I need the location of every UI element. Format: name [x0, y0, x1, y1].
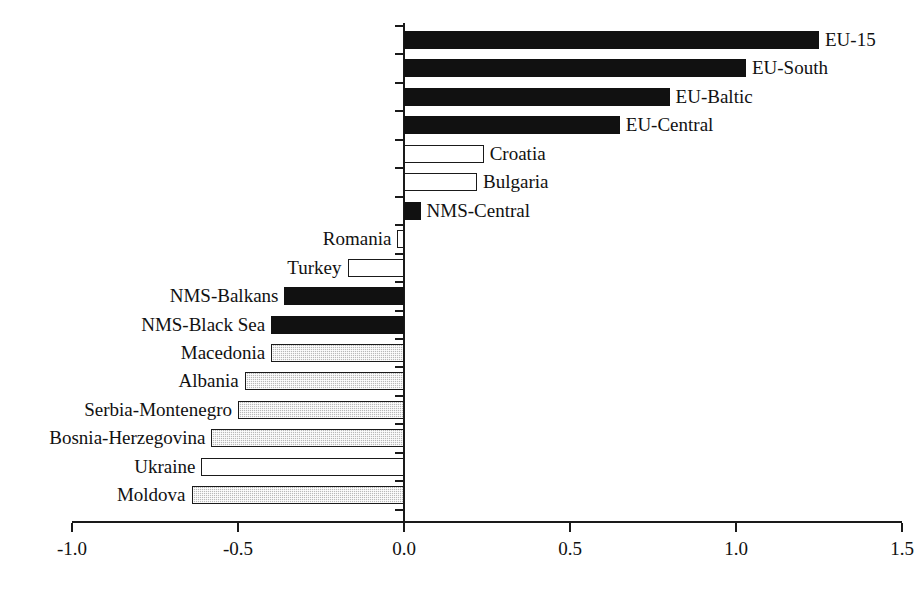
y-axis-tick: [395, 196, 403, 198]
bar: [404, 116, 620, 134]
y-axis-tick: [395, 253, 403, 255]
bar: [404, 202, 421, 220]
y-axis-tick: [395, 167, 403, 169]
category-label: Ukraine: [134, 457, 195, 477]
x-axis-tick: [403, 523, 405, 532]
category-label: Albania: [178, 371, 238, 391]
y-axis-tick: [395, 423, 403, 425]
bar: [404, 145, 484, 163]
y-axis-tick: [395, 139, 403, 141]
bar: [211, 429, 404, 447]
x-axis-tick-label: 0.0: [364, 539, 444, 559]
category-label: EU-Central: [626, 115, 714, 135]
x-axis-tick-label: 0.5: [530, 539, 610, 559]
bar: [284, 287, 404, 305]
bar: [238, 401, 404, 419]
category-label: NMS-Balkans: [170, 286, 279, 306]
bar: [348, 259, 404, 277]
x-axis-tick-label: 1.0: [696, 539, 776, 559]
x-axis-tick: [569, 523, 571, 532]
bar: [404, 59, 746, 77]
plot-area: -1.0-0.50.00.51.01.5EU-15EU-SouthEU-Balt…: [0, 0, 924, 590]
category-label: Croatia: [490, 144, 546, 164]
category-label: Bulgaria: [483, 172, 548, 192]
bar: [271, 344, 404, 362]
category-label: EU-South: [752, 58, 828, 78]
category-label: Moldova: [117, 485, 186, 505]
bar: [404, 31, 819, 49]
category-label: NMS-Black Sea: [141, 315, 265, 335]
bar-chart: -1.0-0.50.00.51.01.5EU-15EU-SouthEU-Balt…: [0, 0, 924, 590]
bar: [201, 458, 404, 476]
y-axis-tick: [395, 480, 403, 482]
x-axis-tick: [735, 523, 737, 532]
y-axis-tick: [395, 110, 403, 112]
y-axis-tick: [395, 509, 403, 511]
y-axis-tick: [395, 338, 403, 340]
category-label: Romania: [323, 229, 392, 249]
bar: [404, 88, 670, 106]
bar: [404, 173, 477, 191]
bar: [397, 230, 404, 248]
category-label: Bosnia-Herzegovina: [49, 428, 205, 448]
category-label: EU-Baltic: [676, 87, 753, 107]
y-axis-tick: [395, 281, 403, 283]
category-label: Serbia-Montenegro: [84, 400, 232, 420]
x-axis-tick-label: 1.5: [862, 539, 924, 559]
y-axis-tick: [395, 452, 403, 454]
category-label: Turkey: [287, 258, 341, 278]
x-axis-tick: [237, 523, 239, 532]
bar: [192, 486, 404, 504]
x-axis-tick-label: -1.0: [32, 539, 112, 559]
category-label: EU-15: [825, 30, 876, 50]
y-axis-tick: [395, 395, 403, 397]
y-axis-tick: [395, 25, 403, 27]
category-label: NMS-Central: [427, 201, 530, 221]
bar: [271, 316, 404, 334]
y-axis-tick: [395, 53, 403, 55]
x-axis-tick-label: -0.5: [198, 539, 278, 559]
y-axis-tick: [395, 310, 403, 312]
x-axis-tick: [71, 523, 73, 532]
x-axis-line: [72, 521, 902, 523]
y-axis-tick: [395, 82, 403, 84]
x-axis-tick: [901, 523, 903, 532]
category-label: Macedonia: [181, 343, 265, 363]
y-axis-tick: [395, 224, 403, 226]
y-axis-tick: [395, 366, 403, 368]
bar: [245, 372, 404, 390]
